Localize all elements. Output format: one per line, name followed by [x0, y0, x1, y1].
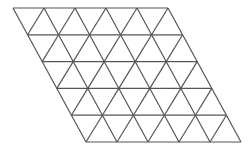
triangular-tiling-diagram: Triangular tiling of a rhombus A paralle…: [0, 0, 248, 151]
figure-root: Triangular tiling of a rhombus A paralle…: [0, 0, 248, 151]
diagram-background: [0, 0, 248, 151]
